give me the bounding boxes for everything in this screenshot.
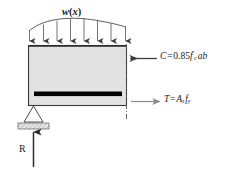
reaction-force-label: R (19, 144, 26, 154)
distributed-load-group (29, 18, 126, 41)
beam-free-body-diagram (0, 0, 229, 171)
distributed-load-label: w(x) (62, 7, 81, 18)
compression-force-label: C = 0.85f′c ab (160, 52, 207, 62)
load-arrows (30, 18, 126, 41)
pinned-support (18, 106, 49, 129)
support-bearing-plate (18, 123, 49, 129)
beam-body (29, 46, 127, 106)
beam-section-rect (29, 46, 127, 106)
rebar-bar (34, 92, 122, 97)
tension-force-label: T = As fy (164, 95, 190, 105)
support-triangle (24, 106, 43, 122)
